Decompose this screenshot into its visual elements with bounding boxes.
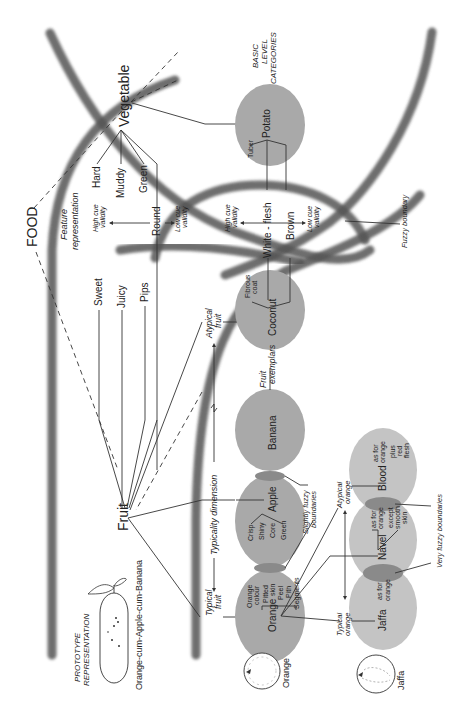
typical-fruit-label-2: fruit [213,594,223,609]
blood-attr: red [396,446,403,456]
jaffa-attr: orange [384,579,392,601]
typicality-dimension-label: Typicality dimension [209,475,219,555]
apple-attr: Shiny [258,522,266,540]
blood-attr: flesh [403,443,410,458]
jaffa-label: Jaffa [377,609,388,631]
navel-attr: orange [377,507,385,529]
navel-attr: smooth [394,506,401,529]
feature-representation-heading: Feature [59,209,69,240]
blood-attr: orange [379,441,387,463]
feature-green: Green [138,165,149,193]
prototype-representation: PROTOTYPE REPRESENTATION Orange-cum-Appl… [73,560,144,690]
low-cue-validity-label-2: validity [181,206,189,228]
orange-attr: Pitted [262,585,269,603]
orange-illustration: Orange [244,653,291,689]
coconut-attr: Fibrous [244,274,251,298]
orange-attr: skin [269,583,276,596]
orange-attr: colour [253,585,260,605]
potato-attr: Tuber [247,139,254,158]
jaffa-illustration-label: Jaffa [396,671,406,690]
atypical-orange-label-2: orange [343,481,352,504]
navel-label: Navel [377,534,388,560]
fuzzy-boundary-label: Fuzzy boundary [400,193,409,248]
high-cue-validity-label-b2: validity [231,206,239,228]
potato-exemplar-label: Potato [261,109,272,138]
jaffa-attr: as for [376,582,383,600]
fruit-exemplars: Fruit exemplars Orange Orange colour Pit… [235,84,305,662]
food-label: FOOD [24,207,40,247]
vegetable-features: Hard Muddy Green Round [91,103,248,470]
feature-hard: Hard [91,166,102,188]
banana-exemplar-label: Banana [267,415,278,450]
feature-sweet: Sweet [93,278,104,306]
fruit-illustrations: Orange Jaffa [244,653,406,693]
low-cue-validity-label-b2: validity [313,206,321,228]
basic-level-heading-3: CATEGORIES [269,31,278,84]
navel-attr: as for [370,510,377,528]
feature-brown: Brown [285,212,296,240]
apple-exemplar-label: Apple [267,486,278,512]
orange-illustration-label: Orange [281,658,291,688]
coconut-exemplar-label: Coconut [267,299,278,336]
low-cue-validity-label-b: Low cue [306,206,313,232]
feature-juicy: Juicy [116,285,127,308]
fruit-label: Fruit [115,503,131,531]
navel-attr: skin [401,511,408,524]
feature-pips: Pips [139,283,150,302]
typicality-dimension: Typical fruit Typicality dimension Atypi… [204,307,250,617]
slightly-fuzzy-label-2: boundaries [309,491,318,528]
high-cue-validity-label-2: validity [99,206,107,228]
atypical-fruit-label-2: fruit [213,313,223,328]
apple-attr: Core [269,523,276,538]
prototype-theory-diagram: FOOD Vegetable Fruit Hard Muddy Green Ro… [0,0,467,712]
basic-level-heading: BASIC [251,44,260,68]
feature-representation-heading-2: representation [70,192,80,250]
typical-orange-label-2: orange [343,613,352,636]
basic-level-heading-2: LEVEL [260,39,269,64]
coconut-attr: coat [251,281,258,294]
basic-level-categories: BASIC LEVEL CATEGORIES [251,31,278,84]
feature-round: Round [151,207,162,236]
prototype-heading: PROTOTYPE [73,632,82,682]
feature-white-flesh: White - flesh [262,202,273,258]
blood-attr: as for [372,444,379,462]
prototype-heading-2: REPRESENTATION [82,614,91,686]
fruit-exemplars-label-2: exemplars [267,344,277,384]
low-cue-validity-label: Low cue [174,206,181,232]
blood-label: Blood [377,465,388,491]
vegetable-label: Vegetable [116,65,132,127]
jaffa-illustration: Jaffa [357,655,406,693]
apple-attr: Crisp [247,525,255,541]
orange-attr: Pith [285,586,292,598]
prototype-caption: Orange-cum-Apple-cum-Banana [134,560,144,690]
hybrid-fruit-illustration [88,578,128,683]
very-fuzzy-label: Very fuzzy boundaries [435,494,444,568]
orange-attr: Peel [277,586,284,600]
feature-muddy: Muddy [115,168,126,198]
